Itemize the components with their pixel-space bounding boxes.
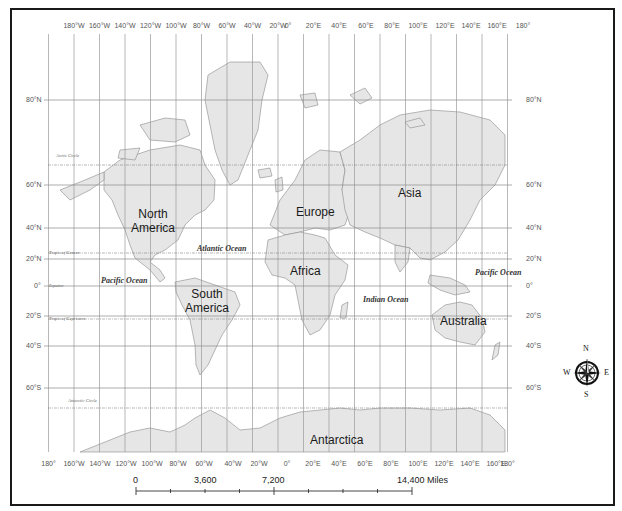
australia-label: Australia — [440, 314, 487, 328]
antarctic-circle-label: Antarctic Circle — [68, 398, 97, 403]
lon-label: 60°W — [195, 460, 212, 467]
lon-label: 100°E — [408, 22, 427, 29]
north-america-label: North America — [131, 207, 175, 235]
lon-label: 120°E — [435, 22, 454, 29]
indian-ocean-label: Indian Ocean — [363, 295, 409, 304]
lon-label: 80°W — [193, 22, 210, 29]
africa-shape — [265, 232, 348, 335]
lon-label: 60°E — [358, 22, 373, 29]
lon-label: 180° — [41, 460, 55, 467]
compass-west: W — [563, 368, 571, 377]
lat-label: 40°N — [26, 224, 42, 231]
lon-label: 180°W — [63, 22, 84, 29]
asia-label: Asia — [398, 186, 421, 200]
lon-label: 40°E — [331, 22, 346, 29]
scale-label-7200: 7,200 — [262, 475, 285, 485]
lon-label: 40°E — [331, 460, 346, 467]
pacific-ocean-east-label: Pacific Ocean — [475, 268, 521, 277]
scale-bar — [136, 487, 412, 495]
lon-label: 20°E — [305, 460, 320, 467]
lat-label: 60°S — [26, 384, 41, 391]
equator-label: Equator — [49, 283, 64, 288]
compass-north: N — [583, 344, 589, 353]
lat-label: 80°N — [526, 96, 542, 103]
tropic-of-capricorn-label: Tropic of Capricorn — [49, 316, 85, 321]
north-america-label-line1: North — [131, 207, 175, 221]
antarctica-shape — [80, 408, 505, 452]
lat-label: 60°N — [526, 181, 542, 188]
lon-label: 60°W — [218, 22, 235, 29]
lon-label: 120°W — [140, 22, 161, 29]
greenland-shape — [205, 62, 268, 185]
scale-label-3600: 3,600 — [194, 475, 217, 485]
lon-label: 100°W — [165, 22, 186, 29]
compass-south: S — [584, 390, 588, 399]
scale-label-14400: 14,400 Miles — [397, 475, 448, 485]
lon-label: 40°W — [224, 460, 241, 467]
europe-shape — [270, 150, 350, 235]
atlantic-ocean-label: Atlantic Ocean — [197, 244, 247, 253]
lon-label: 80°E — [383, 460, 398, 467]
antarctica-label: Antarctica — [310, 433, 363, 447]
scale-label-0: 0 — [133, 475, 138, 485]
lon-label: 60°E — [357, 460, 372, 467]
lon-label: 140°E — [461, 22, 480, 29]
lat-label: 80°N — [26, 96, 42, 103]
lon-label: 0° — [284, 460, 291, 467]
lon-label: 160°E — [487, 22, 506, 29]
lon-label: 160°W — [63, 460, 84, 467]
lat-label: 0° — [526, 282, 533, 289]
lat-label: 60°S — [526, 384, 541, 391]
south-america-label-line2: America — [185, 301, 229, 315]
lon-label: 100°E — [408, 460, 427, 467]
lon-label: 20°E — [306, 22, 321, 29]
lon-label: 180° — [516, 22, 530, 29]
pacific-ocean-west-label: Pacific Ocean — [101, 276, 147, 285]
compass-east: E — [604, 368, 609, 377]
land-masses — [60, 62, 505, 452]
lon-label: 20°W — [250, 460, 267, 467]
lat-label: 0° — [34, 282, 41, 289]
lon-label: 0° — [285, 22, 292, 29]
lon-label: 120°W — [115, 460, 136, 467]
lat-label: 20°S — [526, 312, 541, 319]
lon-label: 40°W — [244, 22, 261, 29]
lat-label: 40°N — [526, 224, 542, 231]
lon-label: 120°E — [434, 460, 453, 467]
lon-label: 80°E — [384, 22, 399, 29]
south-america-label-line1: South — [185, 287, 229, 301]
lat-label: 20°N — [26, 255, 42, 262]
lon-label: 80°W — [169, 460, 186, 467]
tropic-of-cancer-label: Tropic of Cancer — [49, 250, 80, 255]
lat-label: 20°S — [26, 312, 41, 319]
compass-rose: N S E W — [562, 344, 612, 400]
lat-label: 20°N — [526, 255, 542, 262]
arctic-circle-label: Arctic Circle — [56, 153, 79, 158]
south-america-label: South America — [185, 287, 229, 315]
lon-label: 160°W — [89, 22, 110, 29]
lat-label: 40°S — [526, 342, 541, 349]
lon-label: 140°W — [114, 22, 135, 29]
lat-label: 60°N — [26, 181, 42, 188]
lon-label: 140°E — [460, 460, 479, 467]
lon-label: 140°W — [89, 460, 110, 467]
lat-label: 40°S — [26, 342, 41, 349]
africa-label: Africa — [290, 264, 321, 278]
europe-label: Europe — [296, 205, 335, 219]
lon-label: 100°W — [141, 460, 162, 467]
north-america-label-line2: America — [131, 221, 175, 235]
lon-label: 180° — [500, 460, 514, 467]
